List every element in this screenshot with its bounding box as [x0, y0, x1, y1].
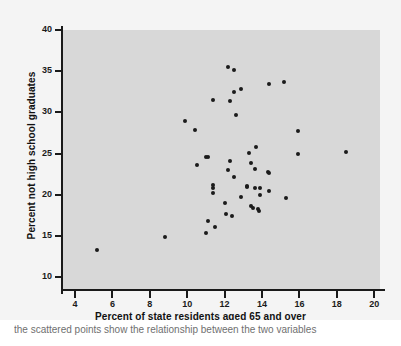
- data-point: [204, 231, 208, 235]
- x-tick-label: 12: [215, 300, 235, 309]
- y-tick-mark: [55, 29, 62, 31]
- x-tick-label: 18: [327, 300, 347, 309]
- x-tick-mark: [111, 291, 113, 298]
- x-tick-mark: [186, 291, 188, 298]
- x-tick-mark: [74, 291, 76, 298]
- caption-text: the scattered points show the relationsh…: [14, 324, 394, 335]
- data-point: [247, 151, 251, 155]
- plot-area: [62, 30, 380, 290]
- x-tick-label: 14: [252, 300, 272, 309]
- data-point: [195, 163, 199, 167]
- y-tick-mark: [55, 276, 62, 278]
- y-tick-mark: [55, 153, 62, 155]
- data-point: [344, 150, 348, 154]
- x-tick-label: 4: [65, 300, 85, 309]
- y-tick-mark: [55, 235, 62, 237]
- data-point: [296, 129, 300, 133]
- x-tick-label: 6: [102, 300, 122, 309]
- x-tick-label: 10: [177, 300, 197, 309]
- x-tick-label: 8: [140, 300, 160, 309]
- data-point: [206, 219, 210, 223]
- y-tick-mark: [55, 111, 62, 113]
- scatter-plot-figure: 10152025303540 468101214161820 Percent n…: [0, 0, 401, 320]
- data-point: [251, 206, 255, 210]
- data-point: [249, 161, 253, 165]
- y-tick-label: 10: [32, 272, 52, 281]
- y-tick-mark: [55, 70, 62, 72]
- data-point: [232, 90, 236, 94]
- x-tick-mark: [298, 291, 300, 298]
- data-point: [258, 193, 262, 197]
- y-axis-line: [61, 26, 63, 294]
- y-tick-mark: [55, 194, 62, 196]
- data-point: [253, 167, 257, 171]
- x-tick-label: 16: [289, 300, 309, 309]
- data-point: [232, 68, 236, 72]
- x-tick-mark: [224, 291, 226, 298]
- data-point: [232, 175, 236, 179]
- x-tick-mark: [336, 291, 338, 298]
- x-tick-mark: [373, 291, 375, 298]
- x-tick-mark: [149, 291, 151, 298]
- data-point: [228, 99, 232, 103]
- data-point: [183, 119, 187, 123]
- data-point: [267, 171, 271, 175]
- x-tick-label: 20: [364, 300, 384, 309]
- data-point: [206, 155, 210, 159]
- data-point: [253, 186, 257, 190]
- y-tick-label: 40: [32, 25, 52, 34]
- caption-strip: the scattered points show the relationsh…: [0, 320, 401, 346]
- data-point: [234, 113, 238, 117]
- y-axis-title: Percent not high school graduates: [26, 41, 37, 271]
- data-point: [223, 201, 227, 205]
- x-tick-mark: [261, 291, 263, 298]
